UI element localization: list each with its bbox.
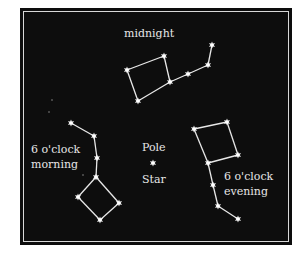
label-morning-line1: 6 o'clock — [31, 143, 81, 156]
stars — [48, 41, 241, 223]
star-evening-6 — [235, 215, 241, 222]
star-morning-2 — [94, 154, 100, 161]
label-evening-line2: evening — [224, 185, 268, 198]
label-morning-line2: morning — [31, 158, 78, 171]
faint-star-2 — [82, 174, 84, 176]
line-evening-1 — [227, 122, 238, 155]
line-morning-3 — [78, 177, 96, 197]
line-midnight-4 — [170, 74, 188, 82]
star-midnight-2 — [167, 78, 173, 85]
line-evening-6 — [218, 206, 238, 219]
label-pole: Pole — [142, 141, 166, 154]
star-diagram: midnight 6 o'clock morning 6 o'clock eve… — [0, 0, 302, 257]
star-midnight-3 — [135, 97, 141, 104]
star-morning-0 — [68, 119, 74, 126]
line-evening-4 — [208, 163, 213, 185]
line-morning-4 — [78, 197, 100, 220]
line-morning-0 — [71, 123, 94, 136]
line-evening-5 — [213, 185, 218, 206]
line-midnight-1 — [164, 56, 170, 82]
star-midnight-0 — [124, 66, 130, 73]
label-midnight: midnight — [124, 27, 175, 40]
line-midnight-5 — [188, 65, 208, 74]
line-morning-1 — [94, 136, 97, 158]
line-midnight-0 — [127, 56, 164, 70]
star-evening-5 — [215, 202, 221, 209]
star-evening-4 — [210, 181, 216, 188]
star-midnight-5 — [205, 61, 211, 68]
line-evening-2 — [208, 155, 238, 163]
line-midnight-3 — [127, 70, 138, 101]
line-midnight-6 — [208, 45, 212, 65]
star-morning-1 — [91, 132, 97, 139]
faint-star-0 — [51, 99, 53, 101]
pole-star-icon — [150, 159, 156, 166]
line-morning-5 — [100, 203, 119, 220]
line-morning-6 — [96, 177, 119, 203]
star-midnight-6 — [209, 41, 215, 48]
faint-star-1 — [48, 111, 50, 113]
label-evening-line1: 6 o'clock — [224, 170, 274, 183]
line-midnight-2 — [138, 82, 170, 101]
star-midnight-4 — [185, 70, 191, 77]
line-evening-0 — [194, 122, 227, 129]
star-midnight-1 — [161, 52, 167, 59]
label-star: Star — [142, 173, 167, 186]
line-evening-3 — [194, 129, 208, 163]
constellation-lines — [71, 45, 238, 220]
